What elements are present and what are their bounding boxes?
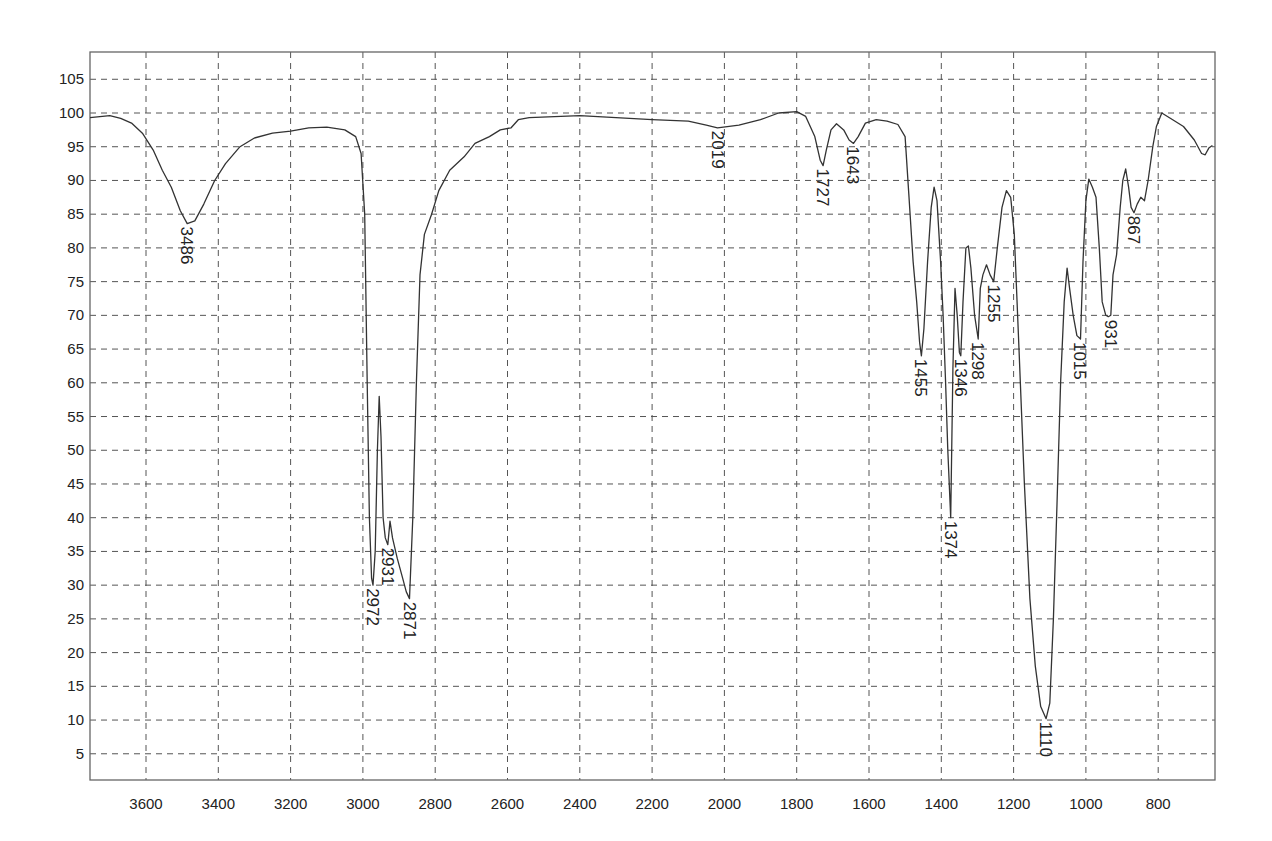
y-tick-label: 70: [67, 306, 84, 323]
y-tick-label: 75: [67, 273, 84, 290]
x-tick-label: 2000: [708, 795, 741, 812]
y-tick-label: 90: [67, 171, 84, 188]
peak-label: 931: [1101, 320, 1120, 348]
peak-label: 1298: [968, 342, 987, 380]
y-tick-label: 50: [67, 441, 84, 458]
peak-label: 1346: [951, 359, 970, 397]
x-tick-label: 3000: [346, 795, 379, 812]
x-tick-label: 1400: [925, 795, 958, 812]
x-tick-label: 1200: [997, 795, 1030, 812]
y-tick-label: 10: [67, 711, 84, 728]
peak-label: 1015: [1070, 342, 1089, 380]
x-tick-label: 3400: [202, 795, 235, 812]
y-tick-label: 95: [67, 138, 84, 155]
peak-label: 867: [1124, 216, 1143, 244]
peak-label: 2931: [378, 548, 397, 586]
peak-label: 1255: [984, 285, 1003, 323]
x-tick-label: 800: [1146, 795, 1171, 812]
y-axis-tick-labels: 5101520253035404550556065707580859095100…: [59, 70, 84, 762]
y-tick-label: 55: [67, 408, 84, 425]
y-tick-label: 60: [67, 374, 84, 391]
y-tick-label: 105: [59, 70, 84, 87]
x-tick-label: 3600: [129, 795, 162, 812]
y-tick-label: 45: [67, 475, 84, 492]
peak-label: 3486: [177, 227, 196, 265]
peak-label: 1110: [1036, 722, 1055, 757]
y-tick-label: 25: [67, 610, 84, 627]
y-tick-label: 20: [67, 644, 84, 661]
peak-label: 1727: [813, 169, 832, 207]
x-tick-label: 2400: [563, 795, 596, 812]
vertical-gridlines: [146, 52, 1158, 780]
x-tick-label: 2600: [491, 795, 524, 812]
y-tick-label: 30: [67, 576, 84, 593]
y-tick-label: 35: [67, 542, 84, 559]
peak-label: 1643: [843, 146, 862, 184]
peak-label: 1455: [911, 359, 930, 397]
y-tick-label: 65: [67, 340, 84, 357]
peak-labels: 3486297229312871201917271643145513741346…: [177, 131, 1143, 757]
x-tick-label: 2200: [635, 795, 668, 812]
x-axis-tick-labels: 3600340032003000280026002400220020001800…: [129, 795, 1170, 812]
peak-label: 1374: [941, 521, 960, 559]
y-tick-label: 5: [76, 745, 84, 762]
x-tick-label: 2800: [419, 795, 452, 812]
y-tick-label: 40: [67, 509, 84, 526]
x-tick-label: 3200: [274, 795, 307, 812]
y-tick-label: 100: [59, 104, 84, 121]
x-tick-label: 1000: [1069, 795, 1102, 812]
peak-label: 2871: [400, 602, 419, 640]
x-tick-label: 1800: [780, 795, 813, 812]
peak-label: 2972: [363, 588, 382, 626]
spectrum-trace: [90, 112, 1212, 719]
y-tick-label: 85: [67, 205, 84, 222]
peak-label: 2019: [708, 131, 727, 169]
ir-spectrum-chart: 3600340032003000280026002400220020001800…: [0, 0, 1272, 841]
x-tick-label: 1600: [852, 795, 885, 812]
horizontal-gridlines: [90, 79, 1215, 754]
y-tick-label: 80: [67, 239, 84, 256]
y-tick-label: 15: [67, 677, 84, 694]
